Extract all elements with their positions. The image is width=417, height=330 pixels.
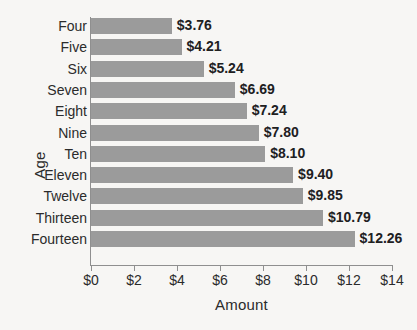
- bar-row: Eight$7.24: [91, 103, 392, 119]
- bar[interactable]: [91, 231, 355, 247]
- category-label: Ten: [64, 145, 87, 163]
- bar[interactable]: [91, 125, 259, 141]
- bar-row: Four$3.76: [91, 18, 392, 34]
- bar-row: Eleven$9.40: [91, 167, 392, 183]
- bar[interactable]: [91, 167, 293, 183]
- x-axis-tick-label: $6: [212, 272, 228, 288]
- x-axis-tick-label: $10: [294, 272, 317, 288]
- x-axis-tick: [220, 265, 221, 271]
- bar[interactable]: [91, 61, 204, 77]
- bar-value-label: $8.10: [265, 145, 305, 162]
- category-label: Twelve: [43, 187, 87, 205]
- bar[interactable]: [91, 146, 265, 162]
- bar[interactable]: [91, 188, 303, 204]
- x-axis-tick-label: $8: [255, 272, 271, 288]
- bar-value-label: $12.26: [355, 230, 403, 247]
- category-label: Eight: [55, 102, 87, 120]
- x-axis-tick-label: $12: [337, 272, 360, 288]
- category-label: Eleven: [44, 166, 87, 184]
- bar-row: Fourteen$12.26: [91, 231, 392, 247]
- bar-value-label: $9.85: [303, 187, 343, 204]
- bar-value-label: $3.76: [172, 17, 212, 34]
- bar-row: Twelve$9.85: [91, 188, 392, 204]
- bar[interactable]: [91, 39, 182, 55]
- category-label: Five: [61, 38, 87, 56]
- bar-row: Seven$6.69: [91, 82, 392, 98]
- bar-value-label: $4.21: [182, 38, 222, 55]
- x-axis-line: [91, 265, 392, 266]
- x-axis-tick: [91, 265, 92, 271]
- bar-value-label: $7.80: [259, 124, 299, 141]
- bar-value-label: $7.24: [247, 102, 287, 119]
- bar-value-label: $5.24: [204, 60, 244, 77]
- x-axis-tick: [177, 265, 178, 271]
- x-axis-tick-label: $4: [169, 272, 185, 288]
- x-axis-tick: [349, 265, 350, 271]
- plot-area: Four$3.76Five$4.21Six$5.24Seven$6.69Eigh…: [91, 17, 392, 265]
- bar-row: Five$4.21: [91, 39, 392, 55]
- bar-row: Ten$8.10: [91, 146, 392, 162]
- y-axis-title: Age: [26, 0, 52, 330]
- x-axis-title: Amount: [91, 296, 392, 313]
- category-label: Thirteen: [36, 209, 87, 227]
- x-axis-tick-label: $14: [380, 272, 403, 288]
- bar[interactable]: [91, 18, 172, 34]
- bar-row: Thirteen$10.79: [91, 210, 392, 226]
- category-label: Four: [58, 17, 87, 35]
- x-axis-tick: [134, 265, 135, 271]
- bar[interactable]: [91, 103, 247, 119]
- x-axis-tick-label: $2: [126, 272, 142, 288]
- bar-chart: Age Four$3.76Five$4.21Six$5.24Seven$6.69…: [0, 0, 417, 330]
- category-label: Six: [68, 60, 87, 78]
- bar[interactable]: [91, 210, 323, 226]
- x-axis-tick-label: $0: [83, 272, 99, 288]
- category-label: Seven: [47, 81, 87, 99]
- x-axis-tick: [392, 265, 393, 271]
- category-label: Nine: [58, 124, 87, 142]
- x-axis-tick: [306, 265, 307, 271]
- bar-value-label: $6.69: [235, 81, 275, 98]
- bar[interactable]: [91, 82, 235, 98]
- bar-row: Nine$7.80: [91, 125, 392, 141]
- x-axis-tick: [263, 265, 264, 271]
- bar-row: Six$5.24: [91, 61, 392, 77]
- bar-value-label: $10.79: [323, 209, 371, 226]
- category-label: Fourteen: [31, 230, 87, 248]
- bar-value-label: $9.40: [293, 166, 333, 183]
